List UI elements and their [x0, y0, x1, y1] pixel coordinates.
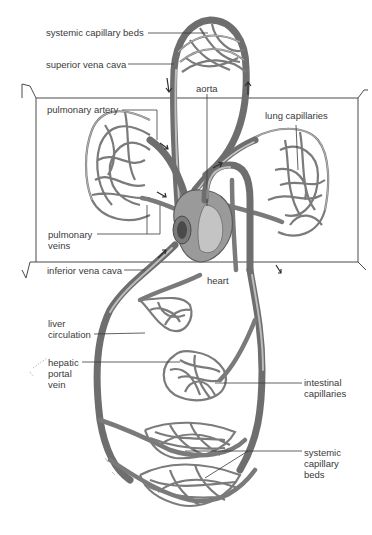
label-inferior-vena-cava: inferior vena cava — [47, 265, 122, 276]
liver-capillaries — [140, 298, 191, 331]
label-intestinal-capillaries: intestinal capillaries — [304, 377, 364, 399]
left-lung-capillaries — [86, 111, 150, 220]
label-systemic-capillary-beds-top: systemic capillary beds — [46, 27, 144, 38]
label-hepatic-portal-vein: hepatic portal vein — [48, 357, 84, 390]
label-heart: heart — [207, 275, 229, 286]
label-superior-vena-cava: superior vena cava — [46, 59, 126, 70]
label-aorta: aorta — [196, 83, 218, 94]
label-liver-circulation: liver circulation — [48, 318, 94, 340]
label-lung-capillaries: lung capillaries — [265, 110, 328, 121]
intestinal-capillaries — [164, 351, 226, 400]
label-pulmonary-artery: pulmonary artery — [47, 104, 118, 115]
lower-systemic-beds — [100, 420, 255, 506]
right-lung-capillaries — [250, 129, 328, 236]
label-pulmonary-veins: pulmonary veins — [48, 229, 100, 251]
label-systemic-capillary-beds-bottom: systemic capillary beds — [304, 447, 354, 480]
